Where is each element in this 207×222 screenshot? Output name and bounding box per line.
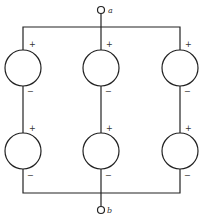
circuit-diagram: a + − + − + − + − + − + − b <box>0 0 207 222</box>
branch-left: + − + − <box>5 40 41 180</box>
terminal-b <box>98 207 105 214</box>
plus-sign: + <box>106 124 113 133</box>
voltage-source-middle-upper <box>83 50 119 86</box>
voltage-source-middle-lower <box>83 133 119 169</box>
terminal-a <box>98 7 105 14</box>
branch-middle: + − + − <box>83 40 119 180</box>
terminal-b-label: b <box>107 206 112 215</box>
minus-sign: − <box>184 171 191 180</box>
minus-sign: − <box>27 87 34 96</box>
minus-sign: − <box>105 87 112 96</box>
voltage-source-left-lower <box>5 133 41 169</box>
voltage-source-right-upper <box>162 50 198 86</box>
plus-sign: + <box>185 124 192 133</box>
minus-sign: − <box>105 171 112 180</box>
plus-sign: + <box>106 40 113 49</box>
minus-sign: − <box>27 171 34 180</box>
plus-sign: + <box>29 124 36 133</box>
plus-sign: + <box>29 40 36 49</box>
minus-sign: − <box>184 87 191 96</box>
plus-sign: + <box>185 40 192 49</box>
terminal-a-label: a <box>108 6 113 15</box>
voltage-source-left-upper <box>5 50 41 86</box>
branch-right: + − + − <box>162 40 198 180</box>
voltage-source-right-lower <box>162 133 198 169</box>
